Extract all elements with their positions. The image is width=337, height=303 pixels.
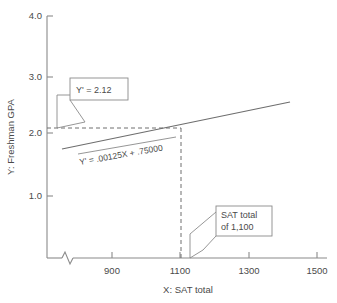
predicted-value-callout-label: Y' = 2.12: [76, 85, 112, 95]
y-tick-label-1: 1.0: [29, 190, 42, 201]
x-tick-label-1100: 1100: [170, 265, 190, 276]
predicted-value-callout[interactable]: Y' = 2.12: [57, 78, 128, 128]
regression-equation-label: Y' = .00125X + .75000: [78, 137, 176, 167]
regression-chart-figure: 4.0 3.0 2.0 1.0 Y: Freshman GPA 900 1100…: [0, 0, 337, 303]
sat-total-callout-leader: [190, 212, 216, 258]
sat-total-callout-arrow: [190, 236, 216, 258]
y-tick-label-3: 3.0: [29, 71, 42, 82]
x-tick-label-1500: 1500: [306, 265, 327, 276]
x-axis-title: X: SAT total: [163, 284, 213, 295]
x-axis-break-icon: [62, 252, 73, 264]
y-tick-label-4: 4.0: [29, 10, 42, 21]
x-axis-group: 900 1100 1300 1500 X: SAT total: [47, 252, 328, 295]
y-tick-label-2: 2.0: [29, 127, 42, 138]
sat-total-callout[interactable]: SAT total of 1,100: [190, 206, 272, 258]
x-tick-label-900: 900: [104, 265, 120, 276]
sat-total-callout-label-line2: of 1,100: [221, 222, 254, 232]
sat-total-callout-label-line1: SAT total: [221, 210, 257, 220]
y-axis-group: 4.0 3.0 2.0 1.0 Y: Freshman GPA: [5, 10, 53, 258]
predicted-value-callout-arrow: [57, 100, 85, 128]
regression-line: [62, 102, 290, 149]
y-axis-title: Y: Freshman GPA: [5, 98, 16, 175]
predicted-value-callout-leader: [57, 95, 70, 128]
chart-canvas: 4.0 3.0 2.0 1.0 Y: Freshman GPA 900 1100…: [0, 0, 337, 303]
x-tick-label-1300: 1300: [238, 265, 259, 276]
